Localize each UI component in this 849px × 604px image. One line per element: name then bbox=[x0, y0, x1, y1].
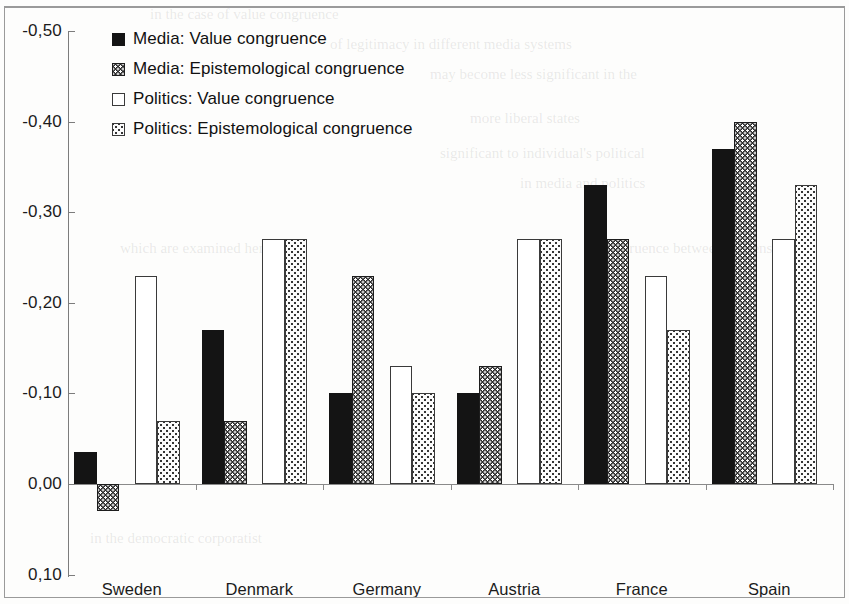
y-axis-tick bbox=[68, 393, 75, 394]
legend-item: Media: Value congruence bbox=[112, 24, 442, 54]
y-axis-tick bbox=[68, 122, 75, 123]
legend-item-label: Media: Value congruence bbox=[133, 29, 327, 49]
x-axis-tick bbox=[196, 484, 197, 490]
bar bbox=[607, 239, 630, 484]
x-axis-category-label: Germany bbox=[323, 580, 451, 599]
legend-item-label: Politics: Value congruence bbox=[133, 89, 335, 109]
bar bbox=[734, 122, 757, 484]
y-axis-tick-label: 0,10 bbox=[4, 565, 62, 585]
bar bbox=[667, 330, 690, 484]
bar bbox=[390, 366, 413, 484]
x-axis-tick bbox=[323, 484, 324, 490]
bar bbox=[540, 239, 563, 484]
legend-swatch-icon bbox=[112, 33, 125, 46]
x-axis-category-label: Spain bbox=[706, 580, 834, 599]
bar bbox=[329, 393, 352, 484]
legend-swatch-icon bbox=[112, 63, 125, 76]
x-axis-tick bbox=[578, 484, 579, 490]
bar bbox=[202, 330, 225, 484]
bar bbox=[584, 185, 607, 484]
y-axis-tick-label: -0,10 bbox=[4, 383, 62, 403]
y-axis-tick bbox=[68, 212, 75, 213]
y-axis-tick-label: -0,30 bbox=[4, 202, 62, 222]
figure-container: in the case of value congruence of legit… bbox=[0, 0, 849, 604]
bar bbox=[772, 239, 795, 484]
bar bbox=[135, 276, 158, 484]
bar bbox=[285, 239, 308, 484]
legend-item: Politics: Epistemological congruence bbox=[112, 114, 442, 144]
bar bbox=[412, 393, 435, 484]
x-axis-category-label: France bbox=[578, 580, 706, 599]
y-axis-tick-label: 0,00 bbox=[4, 474, 62, 494]
y-axis-tick bbox=[68, 31, 75, 32]
y-axis-tick-label: -0,50 bbox=[4, 21, 62, 41]
y-axis-tick-label: -0,20 bbox=[4, 293, 62, 313]
bar bbox=[795, 185, 818, 484]
x-axis-category-label: Austria bbox=[451, 580, 579, 599]
bar bbox=[224, 421, 247, 484]
bar bbox=[517, 239, 540, 484]
bar bbox=[74, 452, 97, 484]
bar bbox=[157, 421, 180, 484]
y-axis-tick-label: -0,40 bbox=[4, 112, 62, 132]
bar bbox=[645, 276, 668, 484]
bar bbox=[479, 366, 502, 484]
legend-item-label: Media: Epistemological congruence bbox=[133, 59, 405, 79]
x-axis-category-label: Sweden bbox=[68, 580, 196, 599]
x-axis-tick bbox=[451, 484, 452, 490]
x-axis-tick bbox=[833, 484, 834, 490]
y-axis-line bbox=[68, 32, 69, 577]
legend-swatch-icon bbox=[112, 123, 125, 136]
bar bbox=[457, 393, 480, 484]
bar bbox=[262, 239, 285, 484]
legend-swatch-icon bbox=[112, 93, 125, 106]
x-axis-category-label: Denmark bbox=[196, 580, 324, 599]
y-axis-tick bbox=[68, 484, 75, 485]
legend-item: Media: Epistemological congruence bbox=[112, 54, 442, 84]
y-axis-tick bbox=[68, 303, 75, 304]
bar bbox=[97, 484, 120, 511]
bar bbox=[712, 149, 735, 484]
bar bbox=[352, 276, 375, 484]
y-axis-tick bbox=[68, 575, 75, 576]
x-axis-tick bbox=[706, 484, 707, 490]
legend-item-label: Politics: Epistemological congruence bbox=[133, 119, 413, 139]
legend-item: Politics: Value congruence bbox=[112, 84, 442, 114]
chart-legend: Media: Value congruenceMedia: Epistemolo… bbox=[112, 24, 442, 144]
